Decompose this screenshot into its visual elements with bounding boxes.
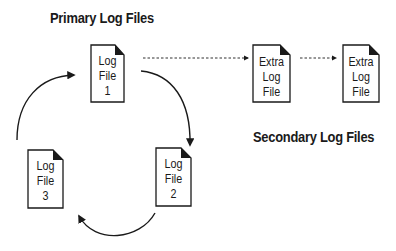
log-file-2-label-line1: Log	[158, 157, 188, 172]
extra-log-file-1-label-line2: Log	[256, 70, 288, 85]
extra-log-file-2-label-line3: File	[346, 85, 377, 100]
extra-log-file-1-label-line3: File	[256, 85, 288, 100]
diagram-connectors	[0, 0, 396, 251]
extra-log-file-2-label-line2: Log	[346, 70, 377, 85]
log-file-1-label-line3: 1	[93, 84, 121, 99]
extra-log-file-1-label-line1: Extra	[256, 55, 288, 70]
log-file-3: Log File 3	[28, 150, 63, 208]
extra-log-file-1: Extra Log File	[253, 45, 290, 102]
extra-log-file-2-label-line1: Extra	[346, 55, 377, 70]
arrow-log3-to-log1	[17, 75, 74, 140]
log-file-3-label-line1: Log	[30, 159, 60, 174]
arrow-log2-to-log3	[79, 213, 155, 236]
log-file-3-label-line2: File	[30, 174, 60, 189]
arrow-log1-to-log2	[141, 71, 190, 145]
extra-log-file-2: Extra Log File	[343, 45, 379, 102]
log-file-1: Log File 1	[91, 45, 124, 102]
log-file-3-label-line3: 3	[30, 189, 60, 204]
log-file-2: Log File 2	[156, 148, 191, 206]
log-file-2-label-line2: File	[158, 172, 188, 187]
log-file-2-label-line3: 2	[158, 187, 188, 202]
log-file-1-label-line2: File	[93, 69, 121, 84]
log-file-1-label-line1: Log	[93, 54, 121, 69]
